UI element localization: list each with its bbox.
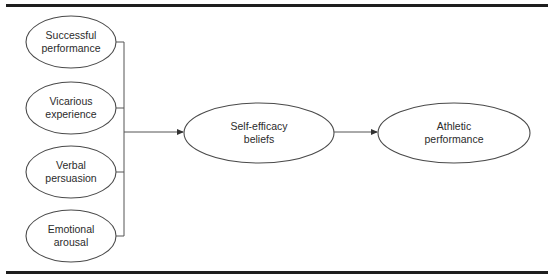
label-line: arousal — [48, 236, 95, 249]
label-line: Successful — [42, 29, 101, 42]
label-line: performance — [42, 42, 101, 55]
label-line: persuasion — [45, 172, 96, 185]
label-self-efficacy-beliefs: Self-efficacy beliefs — [231, 120, 288, 146]
label-athletic-performance: Athletic performance — [425, 120, 484, 146]
label-line: Self-efficacy — [231, 120, 288, 133]
label-verbal-persuasion: Verbal persuasion — [45, 159, 96, 185]
label-vicarious-experience: Vicarious experience — [45, 95, 96, 121]
label-line: Emotional — [48, 223, 95, 236]
label-line: beliefs — [231, 133, 288, 146]
label-line: experience — [45, 108, 96, 121]
label-emotional-arousal: Emotional arousal — [48, 223, 95, 249]
label-line: Verbal — [45, 159, 96, 172]
label-line: performance — [425, 133, 484, 146]
label-line: Vicarious — [45, 95, 96, 108]
label-successful-performance: Successful performance — [42, 29, 101, 55]
label-line: Athletic — [425, 120, 484, 133]
